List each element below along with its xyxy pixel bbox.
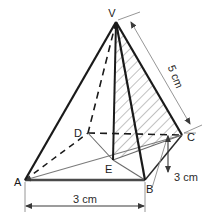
dimension-label-slant-edge: 5 cm	[166, 63, 186, 90]
figure-canvas: V A B C D E 3 cm 3 cm 5 cm	[0, 0, 212, 218]
vertex-label-C: C	[187, 131, 195, 143]
vertex-label-V: V	[108, 7, 116, 19]
vertex-label-B: B	[146, 183, 153, 195]
dimension-label-base-depth: 3 cm	[174, 171, 198, 183]
edge-A-D-hidden	[25, 133, 88, 180]
edge-V-A	[25, 22, 116, 180]
line-E-B	[113, 160, 145, 180]
geometry-figure: V A B C D E 3 cm 3 cm 5 cm	[0, 0, 212, 218]
ext-line-V	[118, 12, 140, 20]
line-A-C	[25, 135, 182, 180]
dimension-label-base-width: 3 cm	[73, 193, 97, 205]
line-E-D	[88, 133, 113, 160]
edge-V-D-hidden	[88, 22, 116, 133]
vertex-label-A: A	[14, 176, 22, 188]
vertex-label-E: E	[105, 163, 112, 175]
vertex-label-D: D	[74, 127, 82, 139]
